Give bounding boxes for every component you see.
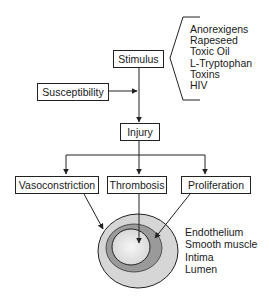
thrombosis-box: Thrombosis xyxy=(107,176,167,194)
vessel-layer-label: Smooth muscle xyxy=(185,238,257,250)
stimulus-examples-list: Anorexigens Rapeseed Toxic Oil L-Tryptop… xyxy=(190,24,252,91)
stimulus-example: Toxic Oil xyxy=(190,46,252,57)
vasoconstriction-box: Vasoconstriction xyxy=(15,176,99,194)
stimulus-example: HIV xyxy=(190,80,252,91)
proliferation-box: Proliferation xyxy=(181,176,251,194)
susceptibility-box: Susceptibility xyxy=(37,83,109,101)
vessel-layer-label: Endothelium xyxy=(185,226,257,238)
vessel-layer-label: Lumen xyxy=(185,263,257,275)
injury-box: Injury xyxy=(120,123,160,141)
vessel-cross-section xyxy=(98,214,178,288)
stimulus-box: Stimulus xyxy=(113,50,164,68)
vessel-layer-label: Intima xyxy=(185,251,257,263)
vessel-layer-labels: Endothelium Smooth muscle Intima Lumen xyxy=(185,226,257,275)
